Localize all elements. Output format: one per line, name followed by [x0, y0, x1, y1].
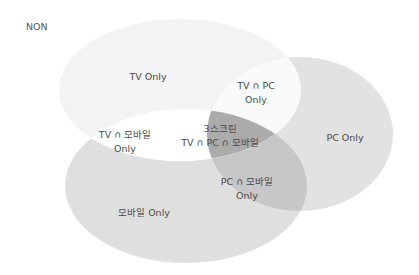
label-tv-pc-line2: Only	[237, 93, 275, 107]
label-tv-pc-line1: TV ∩ PC	[237, 79, 275, 93]
label-all-three-line1: 3스크린	[181, 122, 259, 136]
label-tv-pc: TV ∩ PC Only	[237, 79, 275, 107]
label-tv-only-text: TV Only	[129, 70, 166, 84]
label-pc-mobile: PC ∩ 모바일 Only	[221, 175, 273, 203]
label-pc-mobile-line1: PC ∩ 모바일	[221, 175, 273, 189]
label-tv-only: TV Only	[129, 70, 166, 84]
label-mobile-only: 모바일 Only	[118, 206, 170, 220]
label-pc-only: PC Only	[326, 131, 363, 145]
label-all-three-line2: TV ∩ PC ∩ 모바일	[181, 136, 259, 150]
label-tv-mobile-line1: TV ∩ 모바일	[99, 128, 151, 142]
label-tv-mobile: TV ∩ 모바일 Only	[99, 128, 151, 156]
label-mobile-only-text: 모바일 Only	[118, 206, 170, 220]
label-pc-mobile-line2: Only	[221, 189, 273, 203]
label-pc-only-text: PC Only	[326, 131, 363, 145]
label-all-three: 3스크린 TV ∩ PC ∩ 모바일	[181, 122, 259, 150]
label-tv-mobile-line2: Only	[99, 142, 151, 156]
outside-label-non: NON	[26, 21, 48, 32]
